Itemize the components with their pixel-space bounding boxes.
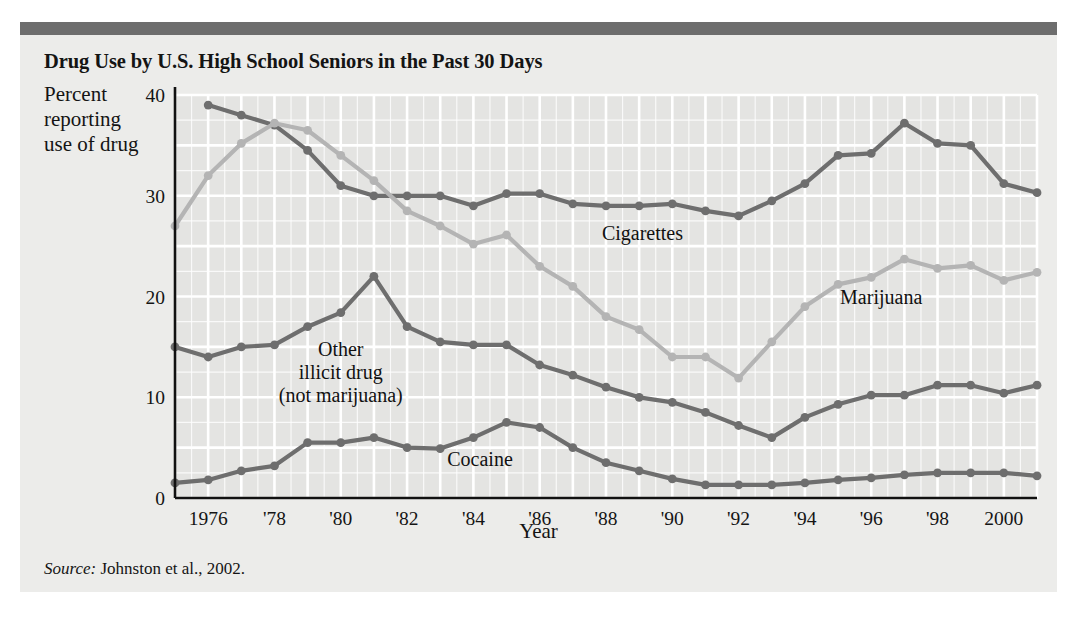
- y-tick-label: 10: [146, 387, 166, 408]
- data-point: [1033, 268, 1042, 277]
- data-point: [370, 433, 379, 442]
- data-point: [1033, 188, 1042, 197]
- data-point: [535, 423, 544, 432]
- data-point: [999, 276, 1008, 285]
- series-label: Cigarettes: [602, 222, 683, 245]
- data-point: [668, 398, 677, 407]
- data-point: [403, 322, 412, 331]
- data-point: [568, 443, 577, 452]
- data-point: [867, 273, 876, 282]
- data-point: [535, 189, 544, 198]
- data-point: [204, 171, 213, 180]
- data-point: [933, 139, 942, 148]
- data-point: [535, 262, 544, 271]
- data-point: [303, 438, 312, 447]
- y-tick-label: 30: [146, 186, 166, 207]
- data-point: [436, 191, 445, 200]
- data-point: [436, 337, 445, 346]
- data-point: [502, 189, 511, 198]
- data-point: [801, 479, 810, 488]
- series-label: illicit drug: [299, 361, 383, 384]
- data-point: [469, 240, 478, 249]
- data-point: [933, 264, 942, 273]
- y-tick-label: 0: [155, 488, 165, 509]
- data-point: [834, 400, 843, 409]
- data-point: [933, 468, 942, 477]
- data-point: [370, 191, 379, 200]
- data-point: [303, 146, 312, 155]
- data-point: [900, 470, 909, 479]
- data-point: [635, 325, 644, 334]
- data-point: [867, 474, 876, 483]
- data-point: [767, 337, 776, 346]
- figure-panel: Drug Use by U.S. High School Seniors in …: [20, 22, 1057, 592]
- data-point: [270, 461, 279, 470]
- data-point: [801, 179, 810, 188]
- data-point: [668, 353, 677, 362]
- data-point: [336, 151, 345, 160]
- data-point: [701, 353, 710, 362]
- data-point: [966, 381, 975, 390]
- plot-area: 0102030401976'78'80'82'84'86'88'90'92'94…: [20, 22, 1057, 592]
- data-point: [403, 443, 412, 452]
- data-point: [336, 438, 345, 447]
- data-point: [403, 207, 412, 216]
- data-point: [635, 466, 644, 475]
- data-point: [502, 231, 511, 240]
- data-point: [801, 413, 810, 422]
- data-point: [204, 101, 213, 110]
- data-point: [568, 371, 577, 380]
- data-point: [900, 391, 909, 400]
- source-note: Source: Johnston et al., 2002.: [44, 559, 245, 579]
- data-point: [336, 181, 345, 190]
- data-point: [469, 341, 478, 350]
- data-point: [469, 201, 478, 210]
- data-point: [767, 481, 776, 490]
- data-point: [237, 343, 246, 352]
- data-point: [502, 341, 511, 350]
- data-point: [900, 255, 909, 264]
- data-point: [336, 308, 345, 317]
- data-point: [469, 433, 478, 442]
- data-point: [1033, 471, 1042, 480]
- data-point: [867, 149, 876, 158]
- data-point: [370, 176, 379, 185]
- data-point: [204, 476, 213, 485]
- data-point: [966, 261, 975, 270]
- source-label: Source:: [44, 559, 96, 578]
- data-point: [834, 476, 843, 485]
- data-point: [370, 272, 379, 281]
- data-point: [403, 191, 412, 200]
- data-point: [237, 111, 246, 120]
- data-point: [568, 282, 577, 291]
- data-point: [270, 341, 279, 350]
- data-point: [568, 199, 577, 208]
- data-point: [668, 475, 677, 484]
- series-label: (not marijuana): [279, 384, 403, 407]
- data-point: [436, 444, 445, 453]
- data-point: [999, 468, 1008, 477]
- series-label: Marijuana: [840, 286, 922, 309]
- line-chart: 0102030401976'78'80'82'84'86'88'90'92'94…: [20, 22, 1057, 592]
- data-point: [668, 199, 677, 208]
- x-axis-title: Year: [20, 519, 1057, 544]
- data-point: [701, 481, 710, 490]
- data-point: [734, 374, 743, 383]
- data-point: [502, 418, 511, 427]
- data-point: [966, 468, 975, 477]
- data-point: [966, 141, 975, 150]
- data-point: [867, 391, 876, 400]
- data-point: [237, 139, 246, 148]
- data-point: [436, 222, 445, 231]
- data-point: [734, 481, 743, 490]
- data-point: [933, 381, 942, 390]
- series-label: Other: [318, 338, 364, 360]
- data-point: [999, 389, 1008, 398]
- data-point: [602, 383, 611, 392]
- data-point: [535, 361, 544, 370]
- data-point: [900, 119, 909, 128]
- data-point: [767, 433, 776, 442]
- data-point: [270, 119, 279, 128]
- data-point: [999, 179, 1008, 188]
- data-point: [237, 466, 246, 475]
